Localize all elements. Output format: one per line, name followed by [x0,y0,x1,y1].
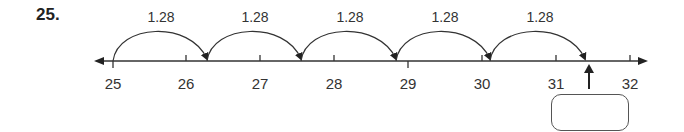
tick-label-27: 27 [252,75,269,92]
answer-box[interactable] [551,94,629,131]
jump-arcs [113,31,585,61]
jump-arc-5 [490,31,585,61]
tick-label-29: 29 [400,75,417,92]
jump-label-2: 1.28 [241,9,268,25]
jump-label-5: 1.28 [526,9,553,25]
number-line [94,57,648,65]
jump-labels: 1.28 1.28 1.28 1.28 1.28 [147,9,553,25]
tick-label-32: 32 [622,75,639,92]
tick-label-30: 30 [474,75,491,92]
jump-label-4: 1.28 [431,9,458,25]
jump-arc-2 [207,31,301,61]
jump-label-3: 1.28 [336,9,363,25]
tick-labels: 25 26 27 28 29 30 31 32 [105,75,639,92]
pointer-arrow-icon [584,64,594,89]
jump-label-1: 1.28 [147,9,174,25]
tick-label-25: 25 [105,75,122,92]
right-arrowhead-icon [638,57,648,65]
jump-arc-3 [301,31,396,61]
jump-arc-1 [113,31,207,61]
tick-label-31: 31 [548,75,565,92]
tick-label-26: 26 [178,75,195,92]
left-arrowhead-icon [94,57,104,65]
jump-arc-4 [396,31,490,61]
tick-label-28: 28 [326,75,343,92]
